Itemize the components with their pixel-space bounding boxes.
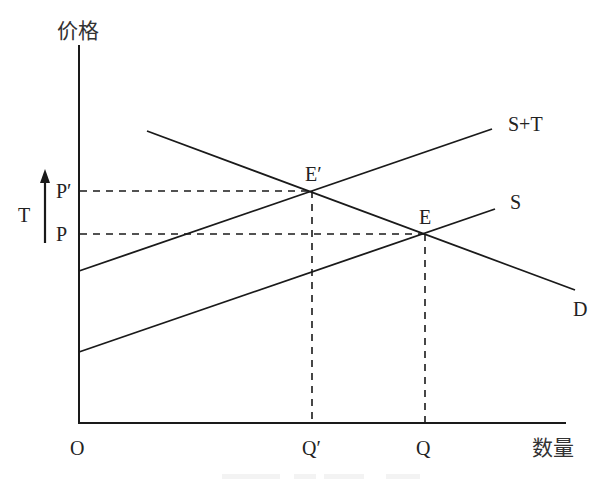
supply-plus-tax-curve bbox=[79, 129, 492, 271]
guide-lines bbox=[80, 191, 425, 422]
tax-incidence-diagram: 价格 数量 O S+T S D E′ E P′ P Q′ Q T bbox=[0, 0, 612, 483]
faint-caption bbox=[222, 474, 420, 479]
equilibrium-label: E bbox=[419, 206, 431, 228]
origin-label: O bbox=[70, 437, 84, 459]
x-axis-label: 数量 bbox=[532, 436, 574, 460]
curves bbox=[79, 129, 575, 352]
price-label: P bbox=[56, 223, 67, 245]
supply-label: S bbox=[510, 191, 521, 213]
supply-plus-tax-label: S+T bbox=[508, 113, 543, 135]
y-axis-label: 价格 bbox=[57, 19, 99, 43]
new-equilibrium-label: E′ bbox=[305, 163, 322, 185]
new-quantity-label: Q′ bbox=[302, 437, 321, 459]
new-price-label: P′ bbox=[56, 180, 72, 202]
demand-label: D bbox=[573, 298, 587, 320]
tax-arrow bbox=[40, 169, 50, 243]
quantity-label: Q bbox=[416, 437, 431, 459]
supply-curve bbox=[79, 209, 495, 352]
tax-label: T bbox=[18, 204, 30, 226]
arrow-up-icon bbox=[40, 169, 50, 183]
